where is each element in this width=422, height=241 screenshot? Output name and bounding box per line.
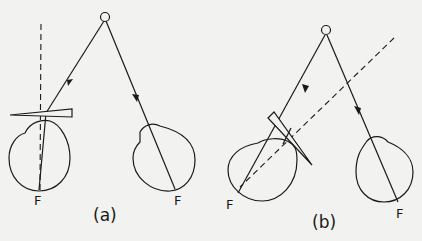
fovea-label-right-b: F: [396, 206, 403, 221]
arrow-icon: [132, 94, 139, 102]
visual-axis-dashed-b: [240, 38, 394, 187]
panel-b: F F (b): [226, 26, 413, 233]
ray-left-b: [238, 35, 325, 193]
ray-left-a: [46, 21, 104, 113]
object-point-b: [322, 26, 331, 35]
caption-a: (a): [93, 205, 117, 225]
prism-a: [10, 109, 72, 117]
eye-right-a: [133, 124, 195, 191]
object-point-a: [101, 13, 110, 22]
ray-right-a: [106, 21, 175, 189]
arrow-icon: [67, 79, 73, 86]
fovea-label-left-a: F: [34, 193, 41, 208]
arrow-icon: [302, 84, 309, 93]
ray-right-b: [327, 35, 398, 202]
fovea-label-left-b: F: [226, 197, 233, 212]
caption-b: (b): [312, 212, 336, 232]
fovea-label-right-a: F: [174, 193, 181, 208]
panel-a: F F (a): [9, 13, 195, 226]
prism-vergence-diagram: F F (a) F F (b): [0, 0, 422, 241]
